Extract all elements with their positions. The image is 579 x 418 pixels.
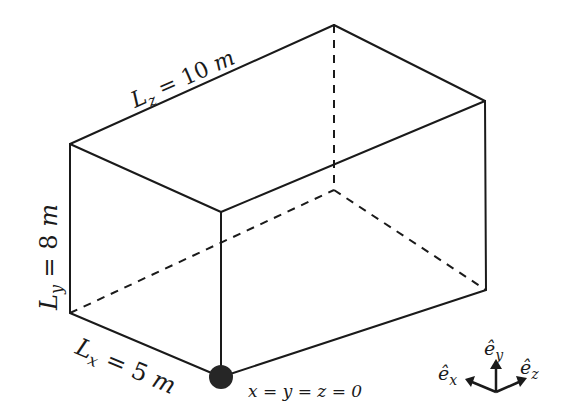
box-diagram: Lz = 10 m Ly = 8 m Lx = 5 m x = y = z = … [0, 0, 579, 418]
edge-right-vertical [485, 101, 486, 290]
hidden-edge-back-right [334, 190, 486, 290]
axis-triad-icon: êy êx êz [438, 337, 539, 392]
origin-label: x = y = z = 0 [248, 381, 362, 401]
edge-top-front-right [221, 101, 485, 212]
edge-top-left [70, 25, 334, 144]
edge-top-front [70, 144, 221, 212]
hidden-edge-back-left [70, 190, 334, 313]
edge-top-right [334, 25, 485, 101]
ex-label: êx [438, 362, 457, 388]
lx-label: Lx = 5 m [70, 332, 181, 402]
origin-dot [209, 365, 233, 389]
ey-label: êy [484, 337, 504, 363]
ly-label: Ly = 8 m [35, 204, 66, 311]
diagram-canvas: Lz = 10 m Ly = 8 m Lx = 5 m x = y = z = … [0, 0, 579, 418]
lz-label: Lz = 10 m [126, 45, 240, 117]
